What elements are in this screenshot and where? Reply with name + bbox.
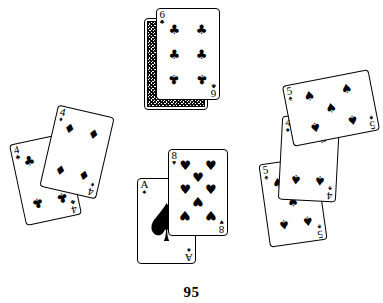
card-six-of-clubs[interactable]: 6♣6♣♣♣♣♣♣♣	[156, 8, 220, 100]
pip-hearts-icon: ♥	[205, 159, 217, 172]
pip-clubs-icon: ♣	[169, 22, 181, 35]
page-number: 95	[0, 284, 383, 301]
card-eight-of-hearts[interactable]: 8♥8♥♥♥♥♥♥♥♥♥	[168, 149, 228, 236]
pip-clubs-icon: ♣	[169, 48, 181, 61]
playing-card-figure: 6♣6♣♣♣♣♣♣♣4♣4♣♣♣♣♣4♦4♦♦♦♦♦A♠A♠♠8♥8♥♥♥♥♥♥…	[0, 0, 383, 303]
pip-diamonds-icon: ♦	[53, 162, 67, 177]
pip-spades-icon: ♠	[302, 89, 316, 104]
pip-spades-icon: ♠	[301, 214, 314, 228]
pip-hearts-icon: ♥	[179, 159, 191, 172]
card-five-of-spades-upper[interactable]: 5♠5♠♠♠♠♠♠	[282, 69, 380, 147]
pip-diamonds-icon: ♦	[77, 168, 91, 183]
pip-clubs-icon: ♣	[169, 73, 181, 86]
pip-spades-icon: ♠	[324, 101, 338, 116]
card-pip-area: ♣♣♣♣♣♣	[157, 9, 219, 99]
pip-hearts-icon: ♥	[192, 171, 204, 184]
pip-spades-icon: ♠	[340, 82, 354, 97]
pip-clubs-icon: ♣	[31, 195, 45, 210]
card-four-of-diamonds[interactable]: 4♦4♦♦♦♦♦	[39, 105, 114, 200]
pip-clubs-icon: ♣	[196, 22, 208, 35]
pip-clubs-icon: ♣	[196, 73, 208, 86]
pip-hearts-icon: ♥	[179, 183, 191, 196]
pip-spades-icon: ♠	[314, 174, 326, 188]
pip-diamonds-icon: ♦	[63, 121, 77, 136]
card-pip-area: ♦♦♦♦	[40, 106, 113, 198]
pip-hearts-icon: ♥	[205, 208, 217, 221]
pip-clubs-icon: ♣	[22, 154, 36, 169]
pip-clubs-icon: ♣	[196, 48, 208, 61]
pip-spades-icon: ♠	[277, 218, 290, 232]
pip-hearts-icon: ♥	[179, 208, 191, 221]
pip-hearts-icon: ♥	[205, 183, 217, 196]
pip-spades-icon: ♠	[308, 119, 322, 134]
pip-diamonds-icon: ♦	[87, 126, 101, 141]
pip-spades-icon: ♠	[346, 112, 360, 127]
pip-hearts-icon: ♥	[192, 195, 204, 208]
card-pip-area: ♠♠♠♠♠	[283, 70, 379, 145]
card-pip-area: ♥♥♥♥♥♥♥♥	[169, 150, 227, 235]
pip-spades-icon: ♠	[289, 173, 301, 187]
